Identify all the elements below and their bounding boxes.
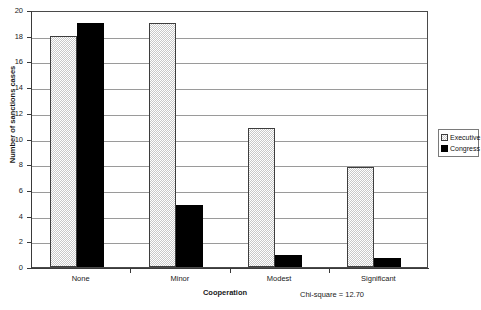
y-tick: [27, 165, 32, 166]
y-tick-label: 18: [0, 33, 23, 41]
y-axis-title: Number of sanctions cases: [8, 45, 17, 185]
x-tick-label-minor: Minor: [135, 274, 225, 283]
y-tick: [27, 114, 32, 115]
x-tick: [130, 269, 131, 273]
legend-swatch-executive-icon: [441, 134, 448, 141]
legend-item-congress: Congress: [441, 143, 476, 154]
y-tick: [27, 217, 32, 218]
bar-executive-significant: [347, 167, 374, 267]
bar-executive-minor: [149, 23, 176, 267]
x-tick-label-none: None: [36, 274, 126, 283]
y-tick-label: 6: [0, 187, 23, 195]
y-tick: [27, 242, 32, 243]
x-tick: [230, 269, 231, 273]
y-tick: [27, 88, 32, 89]
x-tick-label-significant: Significant: [333, 274, 423, 283]
plot-area: [31, 11, 428, 268]
bar-executive-none: [50, 36, 77, 267]
legend-label-congress: Congress: [450, 145, 480, 153]
legend-item-executive: Executive: [441, 132, 476, 143]
y-tick: [27, 37, 32, 38]
y-tick: [27, 11, 32, 12]
x-tick-label-modest: Modest: [234, 274, 324, 283]
y-tick: [27, 140, 32, 141]
x-tick: [329, 269, 330, 273]
bar-executive-modest: [248, 128, 275, 267]
y-tick-label: 20: [0, 7, 23, 15]
y-tick-label: 2: [0, 238, 23, 246]
bar-congress-minor: [176, 205, 203, 267]
y-tick-label: 4: [0, 213, 23, 221]
legend-swatch-congress-icon: [441, 145, 448, 152]
chi-square-annotation: Chi-square = 12.70: [300, 290, 430, 299]
bar-congress-significant: [374, 258, 401, 267]
y-tick: [27, 62, 32, 63]
bar-congress-none: [77, 23, 104, 267]
y-tick: [27, 191, 32, 192]
bar-chart: 02468101214161820 Number of sanctions ca…: [0, 0, 481, 310]
legend-label-executive: Executive: [450, 134, 480, 142]
y-tick-label: 0: [0, 264, 23, 272]
x-axis-title: Cooperation: [180, 288, 270, 297]
bar-congress-modest: [275, 255, 302, 267]
legend: Executive Congress: [438, 129, 479, 157]
